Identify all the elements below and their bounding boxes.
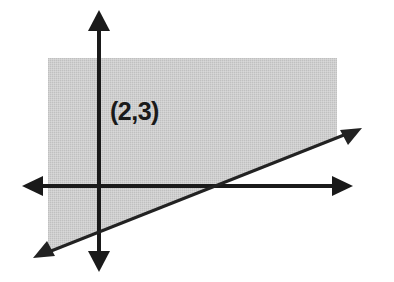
figure-root: (2,3) [0, 0, 394, 282]
x-axis-left-arrowhead [22, 176, 43, 196]
y-axis-bottom-arrowhead [88, 251, 110, 272]
y-axis-top-arrowhead [88, 10, 110, 31]
x-axis-right-arrowhead [332, 176, 353, 196]
point-coordinate-label: (2,3) [110, 99, 159, 124]
graph-canvas [0, 0, 394, 282]
